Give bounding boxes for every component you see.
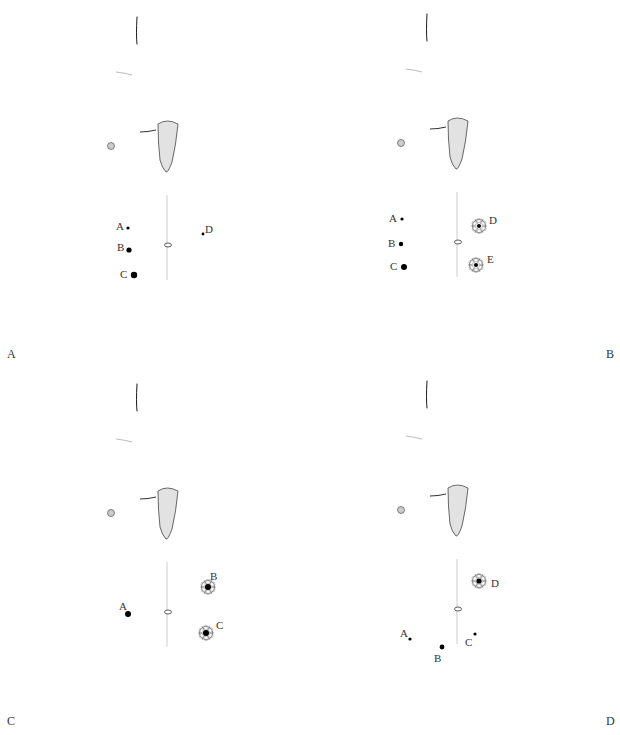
port-b-rosette-icon: B: [200, 570, 217, 595]
torso-illustration: ABCDE: [310, 0, 620, 367]
panel-letter: D: [606, 714, 615, 729]
panel-letter: A: [7, 347, 16, 362]
port-label: A: [389, 212, 397, 224]
nipples: [108, 143, 115, 150]
port-c-rosette-icon: C: [198, 619, 223, 641]
panel-c: ABCC: [0, 367, 310, 734]
navel: [455, 240, 462, 244]
panel-a: ABCDA: [0, 0, 310, 367]
torso-outline: [137, 384, 138, 411]
panel-b: ABCDEB: [310, 0, 620, 367]
port-d-dot-icon: D: [202, 223, 213, 235]
port-label: B: [388, 237, 395, 249]
port-label: D: [205, 223, 213, 235]
port-c-dot-icon: C: [120, 268, 137, 280]
navel: [165, 610, 172, 614]
navel: [165, 243, 172, 247]
port-a-dot-icon: A: [400, 627, 412, 641]
torso-illustration: DABC: [310, 367, 620, 734]
panel-letter: B: [606, 347, 614, 362]
port-d-rosette-icon: D: [471, 214, 497, 234]
port-c-dot-icon: C: [465, 632, 477, 648]
nipples: [398, 507, 405, 514]
port-c-dot-icon: C: [390, 260, 407, 272]
port-a-dot-icon: A: [116, 220, 130, 232]
port-label: C: [465, 636, 472, 648]
clavicle-lines: [116, 72, 132, 75]
sternum: [158, 121, 178, 172]
port-b-dot-icon: B: [388, 237, 403, 249]
sternum: [448, 485, 468, 536]
nipples: [398, 140, 405, 147]
torso-outline: [427, 14, 428, 41]
panel-d: DABCD: [310, 367, 620, 734]
torso-illustration: ABC: [0, 367, 310, 734]
port-label: C: [390, 260, 397, 272]
port-a-dot-icon: A: [119, 600, 131, 617]
port-e-rosette-icon: E: [468, 253, 494, 273]
rib-cage: [140, 130, 156, 132]
clavicle-lines: [406, 69, 422, 72]
panel-letter: C: [7, 714, 15, 729]
port-label: A: [116, 220, 124, 232]
port-label: D: [491, 577, 499, 589]
port-label: C: [120, 268, 127, 280]
port-label: B: [434, 652, 441, 664]
port-label: C: [216, 619, 223, 631]
port-d-rosette-icon: D: [471, 573, 499, 589]
port-label: B: [117, 241, 124, 253]
port-label: B: [210, 570, 217, 582]
port-b-dot-icon: B: [434, 645, 444, 664]
torso-illustration: ABCD: [0, 0, 310, 367]
torso-outline: [137, 17, 138, 44]
nipples: [108, 510, 115, 517]
sternum: [448, 118, 468, 169]
port-label: A: [119, 600, 127, 612]
torso-outline: [427, 381, 428, 408]
port-label: A: [400, 627, 408, 639]
port-a-dot-icon: A: [389, 212, 404, 224]
port-label: D: [489, 214, 497, 226]
rib-cage: [430, 494, 446, 496]
port-label: E: [487, 253, 494, 265]
rib-cage: [140, 497, 156, 499]
clavicle-lines: [116, 439, 132, 442]
clavicle-lines: [406, 436, 422, 439]
port-b-dot-icon: B: [117, 241, 132, 253]
rib-cage: [430, 127, 446, 129]
navel: [455, 607, 462, 611]
sternum: [158, 488, 178, 539]
